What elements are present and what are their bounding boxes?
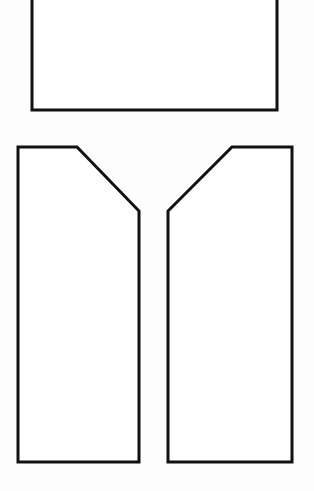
- right-panel-shape: [168, 147, 292, 462]
- line-drawing-svg: [0, 0, 314, 491]
- top-panel-shape: [32, 0, 277, 110]
- diagram-canvas: [0, 0, 314, 491]
- left-panel-shape: [18, 147, 139, 462]
